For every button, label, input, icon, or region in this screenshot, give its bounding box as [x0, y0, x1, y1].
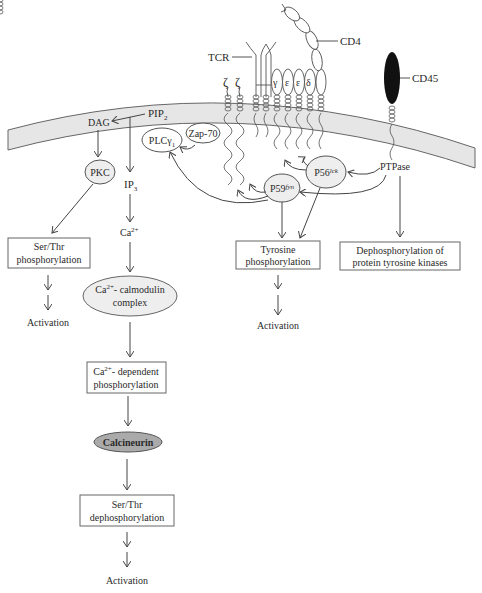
activation-bottom: Activation [106, 575, 148, 586]
ca-calmodulin-line1: Ca2+- calmodulin [95, 283, 164, 295]
ca-dep-line1: Ca2+- dependent [93, 365, 159, 377]
zeta-label-2: ζ [235, 75, 240, 89]
ser-thr-dephos-line2: dephosphorylation [90, 512, 164, 523]
tcr-signaling-diagram: ζ ζ TCR γ ε ε δ CD4 CD45 PIP2 DAG PKC [0, 0, 482, 593]
tcr-label: TCR [208, 51, 230, 63]
pkc-label: PKC [90, 167, 110, 178]
tyr-phos-line1: Tyrosine [261, 244, 296, 255]
gamma-label: γ [272, 77, 278, 88]
dag-label: DAG [88, 117, 110, 128]
activation-mid: Activation [257, 320, 299, 331]
ca-label: Ca2+ [120, 226, 139, 238]
cd4-label: CD4 [340, 35, 361, 47]
ser-thr-phos-line1: Ser/Thr [34, 241, 65, 252]
ca-calmodulin-node [83, 276, 177, 316]
cd45-label: CD45 [412, 72, 439, 84]
ca-dep-line2: phosphorylation [94, 379, 159, 390]
tcr-receptor [246, 42, 276, 97]
ptpase-label: PTPase [380, 161, 411, 172]
delta-label: δ [306, 77, 311, 88]
ser-thr-phos-line2: phosphorylation [17, 254, 82, 265]
dephos-line1: Dephosphorylation of [356, 245, 444, 256]
epsilon-label-1: ε [285, 77, 289, 88]
ser-thr-dephos-line1: Ser/Thr [112, 499, 143, 510]
epsilon-label-2: ε [296, 77, 300, 88]
ca-calmodulin-line2: complex [113, 297, 147, 308]
tyr-phos-line2: phosphorylation [246, 256, 311, 267]
zap70-label: Zap-70 [189, 128, 218, 139]
dephos-line2: protein tyrosine kinases [353, 257, 448, 268]
calcineurin-label: Calcineurin [103, 437, 154, 448]
cd45-receptor [384, 52, 400, 104]
activation-left: Activation [27, 317, 69, 328]
ip3-label: IP3 [124, 178, 138, 193]
zeta-label-1: ζ [223, 75, 228, 89]
